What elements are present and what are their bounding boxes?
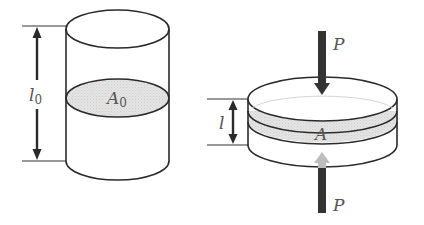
compressed-disk: l A P P [207,31,397,215]
compression-diagram: l0 A0 l [0,0,424,225]
cylinder-bottom-edge [66,161,169,180]
original-length-label: l0 [29,85,42,107]
disk-length-double-arrow-icon [229,100,238,144]
compressed-area-label: A [313,124,327,144]
bottom-force-label: P [332,195,345,215]
compressed-length-label: l [219,113,224,133]
top-force-arrow-icon [314,31,330,95]
top-force-label: P [332,34,345,54]
bottom-force-arrow-icon [314,152,330,213]
original-cylinder: l0 A0 [22,10,169,180]
cylinder-top-face [66,10,169,48]
